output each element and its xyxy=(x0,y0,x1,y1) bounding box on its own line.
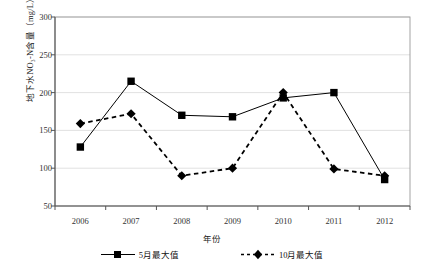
chart-container: 地下水NO₃-N含量（mg/L） 50100150200250300 年份 5月… xyxy=(0,0,424,270)
x-tick-label-2011: 2011 xyxy=(314,216,354,226)
x-tick-label-2006: 2006 xyxy=(60,216,100,226)
chart-legend: 5月最大值 10月最大值 xyxy=(0,248,424,260)
x-tick-label-2012: 2012 xyxy=(365,216,405,226)
legend-item-series-1: 5月最大值 xyxy=(101,248,179,260)
data-point-s2-2006 xyxy=(76,119,85,128)
data-point-s1-2009 xyxy=(229,113,236,120)
x-tick-label-2010: 2010 xyxy=(263,216,303,226)
data-point-s1-2006 xyxy=(77,143,84,150)
x-axis-title: 年份 xyxy=(0,232,424,244)
data-point-s1-2007 xyxy=(127,78,134,85)
legend-key-diamond-dashed-icon xyxy=(241,249,275,260)
data-point-s1-2011 xyxy=(330,89,337,96)
legend-label-series-1: 5月最大值 xyxy=(139,248,179,260)
legend-label-series-2: 10月最大值 xyxy=(279,248,324,260)
data-point-s2-2008 xyxy=(177,171,186,180)
legend-item-series-2: 10月最大值 xyxy=(241,248,324,260)
chart-plot-area xyxy=(0,0,424,270)
x-tick-label-2008: 2008 xyxy=(162,216,202,226)
legend-key-square-solid-icon xyxy=(101,249,135,260)
data-point-s1-2008 xyxy=(178,112,185,119)
series-line-2 xyxy=(80,93,384,176)
x-tick-label-2009: 2009 xyxy=(213,216,253,226)
x-tick-label-2007: 2007 xyxy=(111,216,151,226)
